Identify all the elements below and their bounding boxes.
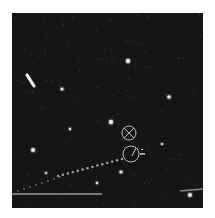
noise-pixel	[27, 185, 28, 186]
noise-pixel	[79, 29, 80, 30]
noise-pixel	[69, 167, 70, 168]
noise-pixel	[113, 116, 114, 117]
trail-dot	[76, 170, 78, 172]
noise-pixel	[97, 199, 98, 200]
trail-dot	[101, 163, 103, 165]
noise-pixel	[188, 134, 189, 135]
noise-pixel	[70, 88, 71, 89]
noise-pixel	[38, 57, 39, 58]
noise-pixel	[92, 35, 93, 36]
noise-pixel	[61, 110, 62, 111]
noise-pixel	[38, 180, 39, 181]
noise-pixel	[147, 149, 148, 150]
noise-pixel	[69, 138, 70, 139]
noise-pixel	[199, 172, 200, 173]
noise-pixel	[151, 179, 152, 180]
noise-pixel	[181, 154, 182, 155]
noise-pixel	[137, 15, 138, 16]
star	[45, 172, 47, 174]
trail-dot	[116, 159, 118, 161]
noise-pixel	[179, 154, 180, 155]
noise-pixel	[63, 24, 64, 25]
noise-pixel	[25, 91, 26, 92]
noise-pixel	[35, 48, 36, 49]
star	[96, 182, 98, 184]
noise-pixel	[98, 87, 99, 88]
noise-pixel	[110, 20, 111, 21]
noise-pixel	[130, 25, 131, 26]
trail-dot	[111, 160, 113, 162]
noise-pixel	[133, 175, 134, 176]
noise-pixel	[25, 49, 26, 50]
noise-pixel	[74, 83, 75, 84]
noise-pixel	[60, 165, 61, 166]
noise-pixel	[78, 61, 79, 62]
noise-pixel	[47, 177, 48, 178]
noise-pixel	[17, 25, 18, 26]
noise-pixel	[44, 42, 45, 43]
noise-pixel	[52, 39, 53, 40]
noise-pixel	[38, 36, 39, 37]
noise-pixel	[126, 41, 127, 42]
noise-pixel	[134, 121, 135, 122]
noise-pixel	[56, 156, 57, 157]
noise-pixel	[96, 65, 97, 66]
noise-pixel	[74, 112, 75, 113]
noise-pixel	[134, 204, 135, 205]
noise-pixel	[85, 167, 86, 168]
trail-dot	[67, 172, 69, 174]
noise-pixel	[135, 97, 136, 98]
noise-pixel	[66, 165, 67, 166]
noise-pixel	[59, 86, 60, 87]
noise-pixel	[77, 181, 78, 182]
noise-pixel	[58, 198, 59, 199]
noise-pixel	[27, 110, 28, 111]
noise-pixel	[133, 42, 134, 43]
noise-pixel	[46, 37, 47, 38]
noise-pixel	[64, 128, 65, 129]
noise-pixel	[177, 34, 178, 35]
noise-pixel	[87, 19, 88, 20]
noise-pixel	[147, 148, 148, 149]
noise-pixel	[53, 41, 54, 42]
noise-pixel	[130, 32, 131, 33]
noise-pixel	[43, 108, 44, 109]
noise-pixel	[199, 14, 200, 15]
noise-pixel	[179, 128, 180, 129]
noise-pixel	[191, 202, 192, 203]
noise-pixel	[89, 161, 90, 162]
noise-pixel	[29, 206, 30, 207]
noise-pixel	[158, 29, 159, 30]
noise-pixel	[24, 82, 25, 83]
noise-pixel	[138, 125, 139, 126]
noise-pixel	[37, 151, 38, 152]
star	[31, 148, 35, 152]
faint-trail-dot	[35, 184, 37, 186]
noise-pixel	[79, 76, 80, 77]
noise-pixel	[128, 78, 129, 79]
trail-dot	[91, 166, 93, 168]
noise-pixel	[65, 143, 66, 144]
trail-dot	[106, 162, 108, 164]
target-marker-circle	[123, 146, 139, 162]
noise-pixel	[166, 169, 167, 170]
noise-pixel	[92, 120, 93, 121]
noise-pixel	[150, 137, 151, 138]
noise-pixel	[115, 67, 116, 68]
marker-label-mark	[141, 149, 143, 150]
trail-dot	[72, 171, 74, 173]
noise-pixel	[87, 147, 88, 148]
star	[109, 120, 113, 124]
noise-pixel	[105, 47, 106, 48]
noise-pixel	[51, 134, 52, 135]
noise-pixel	[144, 52, 145, 53]
noise-pixel	[160, 157, 161, 158]
noise-pixel	[150, 192, 151, 193]
noise-pixel	[79, 81, 80, 82]
noise-pixel	[63, 200, 64, 201]
noise-pixel	[68, 171, 69, 172]
noise-pixel	[85, 30, 86, 31]
noise-pixel	[126, 21, 127, 22]
noise-pixel	[30, 75, 31, 76]
noise-pixel	[99, 121, 100, 122]
